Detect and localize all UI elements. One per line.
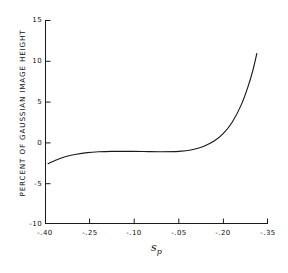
x-axis-title-subscript: p bbox=[157, 247, 162, 256]
x-axis-ticks bbox=[46, 219, 268, 224]
x-tick-label: -.10 bbox=[114, 229, 154, 237]
y-tick-label: 15 bbox=[16, 16, 42, 24]
figure-caption-partial bbox=[26, 266, 262, 273]
x-tick-label: -.40 bbox=[25, 229, 65, 237]
y-axis-tick-labels: 15 10 5 0 -5 -10 bbox=[12, 20, 42, 224]
y-tick-label: 10 bbox=[16, 57, 42, 65]
x-tick-label: -.05 bbox=[159, 229, 199, 237]
x-axis-tick-labels: -.40 -.25 -.10 -.05 -.20 -.35 bbox=[45, 229, 268, 241]
x-tick-label: -.25 bbox=[70, 229, 110, 237]
y-tick-label: -10 bbox=[16, 220, 42, 228]
plot-area bbox=[45, 20, 268, 224]
x-tick-label: -.20 bbox=[203, 229, 243, 237]
plot-svg bbox=[45, 20, 268, 224]
x-tick-label: -.35 bbox=[248, 229, 288, 237]
figure-container: PERCENT OF GAUSSIAN IMAGE HEIGHT 15 10 5… bbox=[0, 0, 288, 273]
x-axis-title: sp bbox=[45, 241, 268, 256]
y-tick-label: -5 bbox=[16, 180, 42, 188]
y-tick-label: 0 bbox=[16, 139, 42, 147]
y-tick-label: 5 bbox=[16, 98, 42, 106]
data-curve bbox=[48, 53, 257, 163]
y-axis-ticks bbox=[46, 21, 51, 224]
